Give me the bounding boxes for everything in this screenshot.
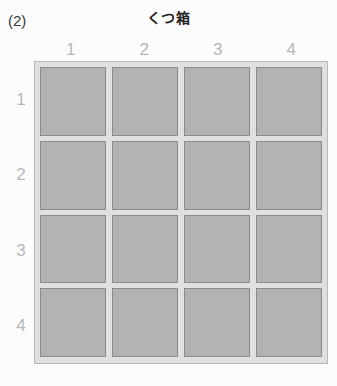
row-header-3: 3 — [8, 213, 34, 288]
cabinet-cell[interactable] — [256, 288, 322, 357]
cabinet-cell[interactable] — [112, 141, 178, 210]
cabinet-cell[interactable] — [256, 67, 322, 136]
shoe-cabinet-grid — [34, 61, 328, 364]
cabinet-cell[interactable] — [256, 215, 322, 284]
cabinet-cell[interactable] — [112, 215, 178, 284]
row-header-4: 4 — [8, 288, 34, 363]
cabinet-cell[interactable] — [40, 215, 106, 284]
cabinet-cell[interactable] — [184, 288, 250, 357]
column-header-2: 2 — [108, 38, 182, 60]
cabinet-cell[interactable] — [184, 215, 250, 284]
cabinet-cell[interactable] — [112, 67, 178, 136]
row-header-column: 1 2 3 4 — [8, 62, 34, 363]
cabinet-cell[interactable] — [40, 141, 106, 210]
cabinet-cell[interactable] — [184, 141, 250, 210]
cabinet-cell[interactable] — [40, 67, 106, 136]
column-header-4: 4 — [255, 38, 329, 60]
cabinet-cell[interactable] — [184, 67, 250, 136]
column-header-1: 1 — [34, 38, 108, 60]
cabinet-cell[interactable] — [40, 288, 106, 357]
column-header-3: 3 — [181, 38, 255, 60]
diagram-title: くつ箱 — [0, 11, 337, 25]
row-header-2: 2 — [8, 137, 34, 212]
row-header-1: 1 — [8, 62, 34, 137]
cabinet-cell[interactable] — [112, 288, 178, 357]
column-header-row: 1 2 3 4 — [34, 38, 328, 60]
cabinet-cell[interactable] — [256, 141, 322, 210]
